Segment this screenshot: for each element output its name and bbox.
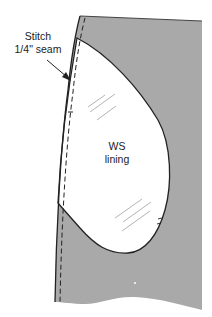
lining-label: WS lining <box>92 140 142 166</box>
stitch-label-line1: Stitch <box>10 30 66 43</box>
stitch-seam-label: Stitch 1/4" seam <box>10 30 66 56</box>
lining-label-line1: WS <box>92 140 142 153</box>
pointer-arrow <box>47 60 71 81</box>
lining-label-line2: lining <box>92 153 142 166</box>
fabric-speck <box>134 282 136 284</box>
stitch-label-line2: 1/4" seam <box>10 43 66 56</box>
